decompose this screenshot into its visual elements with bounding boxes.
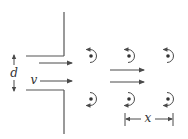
downstream-flow-arrows	[110, 70, 144, 82]
lower-wall	[26, 90, 64, 134]
velocity-label: v	[31, 73, 38, 87]
vortex-icon	[164, 50, 174, 63]
vortex-icon	[164, 93, 174, 106]
vortex-spacing-label: x	[145, 111, 152, 125]
vortex-row-top	[87, 50, 174, 63]
vortex-row-bottom	[87, 93, 174, 106]
opening-width-label: d	[10, 66, 18, 80]
vortex-street-diagram: d v	[0, 0, 188, 139]
vortex-icon	[87, 93, 97, 106]
vortex-icon	[125, 93, 135, 106]
inlet-flow-arrows	[39, 63, 72, 81]
upper-wall	[26, 12, 64, 56]
vortex-icon	[125, 50, 135, 63]
vortex-icon	[87, 50, 97, 63]
